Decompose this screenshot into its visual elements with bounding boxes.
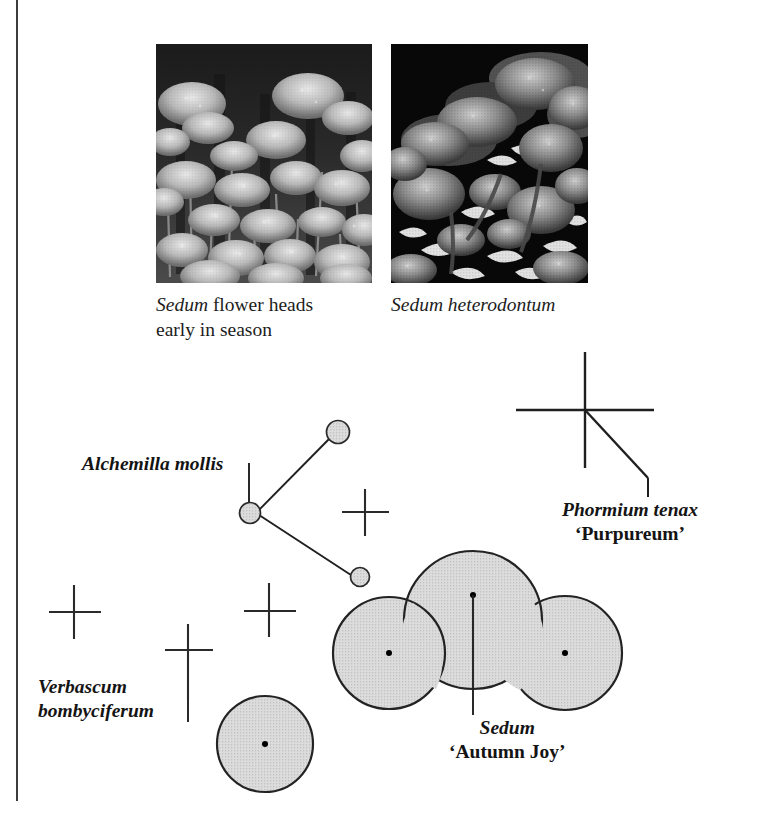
symbol-group-alchemilla-mollis <box>240 421 370 587</box>
plant-circle-alchemilla-hub <box>240 503 261 524</box>
label-sedum-autumn-joy: Sedum ‘Autumn Joy’ <box>449 716 565 763</box>
label-verbascum-line-1: Verbascum <box>38 676 127 697</box>
symbol-verbascum-cross-2 <box>244 583 296 637</box>
book-page: Sedum flower heads early in season Sedum… <box>0 0 762 825</box>
label-phormium-cultivar: ‘Purpureum’ <box>562 522 698 546</box>
label-verbascum-line-2: bombyciferum <box>38 700 154 721</box>
symbol-verbascum-cross-1 <box>49 585 101 639</box>
plant-circle-alchemilla-upper <box>327 421 350 444</box>
symbol-group-sedum-autumn-joy <box>333 551 622 715</box>
symbol-sedum-circle-single <box>217 696 313 792</box>
label-sedum-scientific: Sedum <box>480 717 535 738</box>
symbol-verbascum-cross-3 <box>165 624 213 700</box>
label-phormium-tenax: Phormium tenax ‘Purpureum’ <box>562 498 698 545</box>
symbol-phormium-tenax <box>516 352 654 478</box>
label-sedum-cultivar: ‘Autumn Joy’ <box>449 740 565 764</box>
plant-circle-alchemilla-lower <box>351 568 370 587</box>
label-phormium-scientific: Phormium tenax <box>562 499 698 520</box>
label-alchemilla-mollis: Alchemilla mollis <box>82 452 223 476</box>
label-verbascum-bombyciferum: Verbascum bombyciferum <box>38 675 154 722</box>
symbol-cross-centre <box>342 489 389 536</box>
label-alchemilla-scientific: Alchemilla mollis <box>82 453 223 474</box>
